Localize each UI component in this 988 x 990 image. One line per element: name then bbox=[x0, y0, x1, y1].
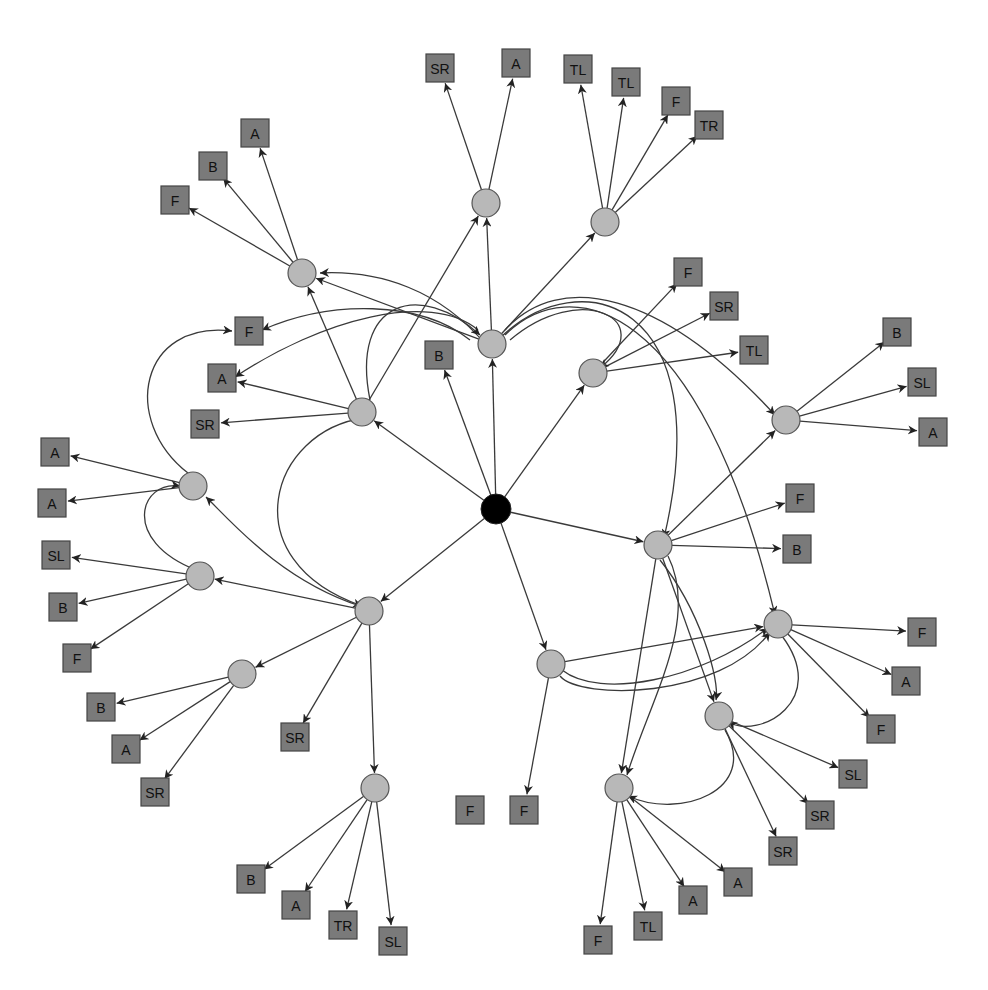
leaf-node: F bbox=[786, 484, 814, 512]
leaf-node: B bbox=[783, 535, 811, 563]
edge bbox=[627, 800, 684, 887]
edge bbox=[492, 359, 495, 494]
leaf-node: SR bbox=[426, 54, 454, 82]
leaf-node: SR bbox=[769, 837, 797, 865]
leaf-label: SR bbox=[773, 844, 792, 860]
leaf-node: A bbox=[502, 49, 530, 77]
edge bbox=[238, 382, 349, 409]
network-diagram: FBASRATLTLFTRBFSRTLBSLAFASRAASLBFBASRSRB… bbox=[0, 0, 988, 990]
leaf-label: B bbox=[96, 700, 105, 716]
inner-node-c12 bbox=[361, 774, 389, 802]
leaf-node: SL bbox=[839, 760, 867, 788]
leaf-label: B bbox=[58, 600, 67, 616]
leaf-label: SL bbox=[47, 548, 64, 564]
edge bbox=[164, 685, 233, 779]
leaf-label: SL bbox=[913, 375, 930, 391]
leaf-node: A bbox=[724, 868, 752, 896]
leaf-label: F bbox=[594, 933, 603, 949]
leaf-label: B bbox=[434, 348, 443, 364]
leaf-label: A bbox=[250, 126, 260, 142]
edge bbox=[489, 79, 513, 190]
leaf-node: F bbox=[674, 258, 702, 286]
curved-edge bbox=[367, 305, 480, 400]
leaf-node: SL bbox=[908, 368, 936, 396]
leaf-label: B bbox=[892, 325, 901, 341]
leaf-label: SR bbox=[195, 417, 214, 433]
leaf-label: F bbox=[684, 265, 693, 281]
edge bbox=[607, 98, 624, 208]
leaf-label: B bbox=[246, 872, 255, 888]
edge bbox=[117, 677, 229, 703]
edge bbox=[800, 421, 917, 431]
leaf-node: TL bbox=[634, 912, 662, 940]
leaf-label: A bbox=[901, 674, 911, 690]
leaf-node: SL bbox=[379, 927, 407, 955]
curved-edge bbox=[500, 302, 677, 538]
inner-node-c5 bbox=[579, 359, 607, 387]
leaf-label: SR bbox=[430, 61, 449, 77]
leaf-label: SR bbox=[285, 730, 304, 746]
edge bbox=[725, 729, 776, 837]
leaf-node: A bbox=[679, 886, 707, 914]
leaf-label: F bbox=[73, 651, 82, 667]
leaf-label: F bbox=[245, 324, 254, 340]
edge bbox=[264, 796, 364, 869]
edge bbox=[663, 558, 714, 702]
edge bbox=[668, 430, 775, 535]
leaf-node: F bbox=[235, 317, 263, 345]
inner-node-c7 bbox=[348, 398, 376, 426]
leaf-node: SL bbox=[42, 541, 70, 569]
edge bbox=[72, 557, 186, 574]
leaf-node: SR bbox=[710, 292, 738, 320]
inner-node-c9 bbox=[186, 562, 214, 590]
leaf-label: A bbox=[121, 742, 131, 758]
leaf-node: TR bbox=[695, 111, 723, 139]
edge bbox=[260, 148, 297, 260]
edge bbox=[600, 802, 617, 924]
inner-node-c6 bbox=[772, 406, 800, 434]
curved-edge bbox=[148, 330, 232, 473]
leaf-node: A bbox=[112, 735, 140, 763]
leaf-label: B bbox=[792, 542, 801, 558]
leaf-node: A bbox=[241, 119, 269, 147]
edge bbox=[581, 85, 603, 208]
edge bbox=[527, 678, 549, 795]
leaf-node: A bbox=[41, 438, 69, 466]
leaf-label: F bbox=[171, 193, 180, 209]
hub-node-layer bbox=[481, 494, 511, 524]
leaf-label: F bbox=[520, 803, 529, 819]
leaf-node: F bbox=[161, 186, 189, 214]
leaf-label: SR bbox=[145, 785, 164, 801]
edge bbox=[502, 233, 595, 334]
leaf-node: B bbox=[425, 341, 453, 369]
leaf-label: SR bbox=[714, 299, 733, 315]
edge bbox=[139, 682, 230, 741]
leaf-node: SR bbox=[191, 410, 219, 438]
leaf-label: F bbox=[466, 803, 475, 819]
leaf-label: F bbox=[877, 722, 886, 738]
edge bbox=[511, 512, 644, 541]
edge bbox=[487, 218, 492, 330]
leaf-label: TR bbox=[700, 118, 719, 134]
leaf-node: SR bbox=[141, 778, 169, 806]
inner-node-c3 bbox=[591, 208, 619, 236]
leaf-label: SL bbox=[384, 934, 401, 950]
leaf-node: A bbox=[892, 667, 920, 695]
edge bbox=[445, 83, 481, 190]
leaf-label: TL bbox=[570, 62, 587, 78]
curved-edge bbox=[206, 497, 360, 606]
inner-node-c17 bbox=[605, 774, 633, 802]
inner-node-c4 bbox=[478, 330, 506, 358]
leaf-label: A bbox=[291, 898, 301, 914]
edge bbox=[622, 802, 645, 911]
inner-node-c16 bbox=[705, 702, 733, 730]
edge bbox=[71, 456, 180, 483]
leaf-node: F bbox=[908, 618, 936, 646]
leaf-node: A bbox=[919, 418, 947, 446]
edge bbox=[505, 385, 585, 497]
edge bbox=[255, 617, 356, 667]
leaf-label: A bbox=[511, 56, 521, 72]
inner-node-c1 bbox=[288, 259, 316, 287]
leaf-label: A bbox=[928, 425, 938, 441]
leaf-node: A bbox=[38, 489, 66, 517]
